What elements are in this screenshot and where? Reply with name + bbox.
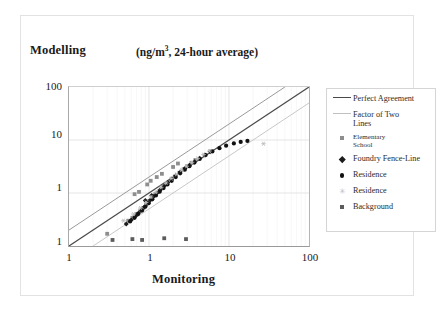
legend-diamond-marker [331,154,353,162]
legend-item[interactable]: Elementary School [331,133,432,149]
y-tick-label-0.1: 1 [28,235,62,247]
legend-asterisk-marker: ✳ [331,186,353,195]
legend-circle-marker [331,170,353,178]
legend-item[interactable]: Perfect Agreement [331,94,432,105]
legend-item-label: Factor of Two Lines [353,110,399,128]
chart-units-subtitle: (ng/m3, 24-hour average) [136,44,258,58]
units-prefix: (ng/m [136,46,165,58]
legend-item[interactable]: Residence [331,170,432,181]
legend-line-icon [331,110,353,114]
legend-square-marker [331,133,353,140]
legend-square-marker [331,202,353,209]
figure-container: Modelling (ng/m3, 24-hour average) Monit… [0,0,448,316]
diamond-marker-icon [339,156,345,162]
units-suffix: , 24-hour average) [169,46,259,58]
y-tick-label-100: 100 [28,80,62,92]
legend-item[interactable]: Foundry Fence-Line [331,154,432,165]
circle-marker-icon [340,173,345,178]
x-tick-label-10: 10 [217,251,243,263]
legend-item-label: Perfect Agreement [353,94,414,103]
chart-legend: Perfect AgreementFactor of Two LinesElem… [326,88,436,232]
legend-item-label: Residence [353,186,387,195]
legend-item-label: Foundry Fence-Line [353,154,420,163]
legend-item[interactable]: Background [331,202,432,213]
line-icon [333,113,351,114]
y-tick-label-10: 10 [28,128,62,140]
asterisk-marker-icon: ✳ [339,189,346,195]
square-marker-icon [340,205,344,209]
scatter-plot-svg [69,87,309,246]
legend-item[interactable]: Factor of Two Lines [331,110,432,128]
legend-item-label: Elementary School [353,133,385,149]
legend-item-label: Residence [353,170,387,179]
x-tick-label-100: 100 [297,251,323,263]
legend-item[interactable]: ✳Residence [331,186,432,197]
line-icon [333,97,351,98]
y-tick-label-1: 1 [28,181,62,193]
legend-item-label: Background [353,202,393,211]
x-axis-title: Monitoring [152,272,215,287]
plot-area [68,86,310,247]
square-marker-icon [340,136,344,140]
x-tick-label-1: 1 [137,251,163,263]
legend-line-icon [331,94,353,98]
x-tick-label-0.1: 1 [56,251,82,263]
y-axis-title: Modelling [30,43,86,58]
